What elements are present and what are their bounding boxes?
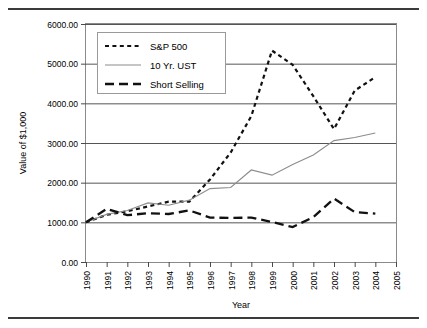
- bottom-divider-rule: [8, 317, 419, 319]
- y-tick-label: 4000.00: [47, 99, 78, 109]
- x-tick-label: 2004: [371, 271, 381, 290]
- x-tick-label: 1994: [165, 271, 175, 290]
- y-tick-label: 3000.00: [47, 139, 78, 149]
- y-tick-label: 2000.00: [47, 178, 78, 188]
- top-divider-rule: [8, 8, 419, 10]
- chart-legend: S&P 50010 Yr. USTShort Selling: [98, 33, 226, 94]
- y-axis-title: Value of $1,000: [18, 112, 28, 174]
- series-line-10-yr-ust: [86, 133, 375, 222]
- x-tick-label: 1997: [227, 271, 237, 290]
- y-axis-tick-labels: 0.001000.002000.003000.004000.005000.006…: [47, 20, 78, 268]
- x-tick-label: 1998: [247, 271, 257, 290]
- x-tick-label: 2001: [309, 271, 319, 290]
- x-tick-label: 2002: [330, 271, 340, 290]
- legend-label-short-selling: Short Selling: [150, 79, 204, 90]
- x-tick-label: 2005: [392, 271, 402, 290]
- x-tick-label: 1995: [185, 271, 195, 290]
- chart-figure: 0.001000.002000.003000.004000.005000.006…: [0, 12, 427, 314]
- y-tick-label: 0.00: [61, 258, 78, 268]
- y-tick-label: 1000.00: [47, 218, 78, 228]
- x-tick-label: 1996: [206, 271, 216, 290]
- x-tick-label: 2000: [289, 271, 299, 290]
- x-tick-label: 1993: [144, 271, 154, 290]
- x-axis-title: Year: [232, 300, 250, 310]
- x-tick-label: 1990: [82, 271, 92, 290]
- x-tick-label: 1992: [123, 271, 133, 290]
- legend-label-s-p-500: S&P 500: [150, 41, 187, 52]
- x-tick-label: 1991: [103, 271, 113, 290]
- x-tick-label: 2003: [351, 271, 361, 290]
- line-chart: 0.001000.002000.003000.004000.005000.006…: [0, 12, 427, 314]
- x-axis-tick-labels: 1990199119921993199419951996199719981999…: [82, 271, 402, 290]
- y-tick-label: 5000.00: [47, 59, 78, 69]
- legend-label-10-yr-ust: 10 Yr. UST: [150, 60, 196, 71]
- y-tick-label: 6000.00: [47, 20, 78, 30]
- x-tick-label: 1999: [268, 271, 278, 290]
